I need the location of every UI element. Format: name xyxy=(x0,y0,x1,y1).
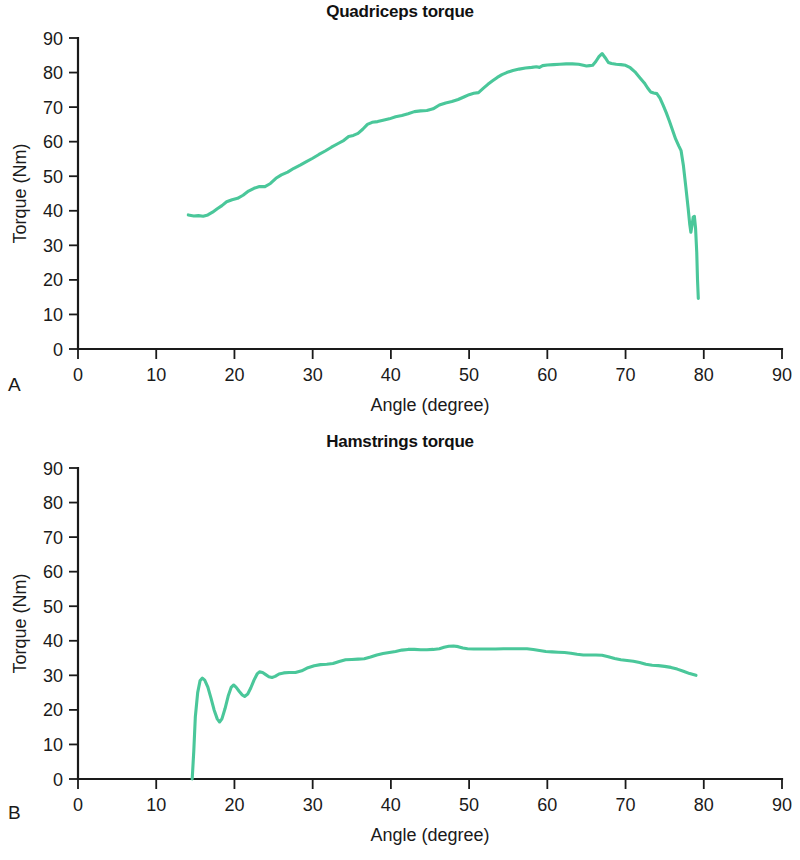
panel-quadriceps: Quadriceps torque A 01020304050607080900… xyxy=(0,0,800,430)
data-series-line xyxy=(188,54,698,299)
data-series-line xyxy=(192,646,696,779)
x-tick-label: 70 xyxy=(616,795,636,815)
x-tick-label: 0 xyxy=(73,365,83,385)
y-tick-label: 70 xyxy=(43,98,63,118)
y-tick-label: 50 xyxy=(43,167,63,187)
x-tick-label: 80 xyxy=(694,795,714,815)
x-tick-label: 20 xyxy=(224,365,244,385)
y-tick-label: 90 xyxy=(43,29,63,49)
y-tick-label: 70 xyxy=(43,528,63,548)
x-tick-label: 60 xyxy=(537,795,557,815)
y-tick-label: 0 xyxy=(53,340,63,360)
x-axis-title: Angle (degree) xyxy=(370,395,489,415)
x-tick-label: 10 xyxy=(146,795,166,815)
y-tick-label: 10 xyxy=(43,735,63,755)
y-tick-label: 20 xyxy=(43,700,63,720)
y-tick-label: 60 xyxy=(43,562,63,582)
x-tick-label: 90 xyxy=(772,795,792,815)
figure-torque-curves: Quadriceps torque A 01020304050607080900… xyxy=(0,0,800,860)
x-tick-label: 60 xyxy=(537,365,557,385)
chart-hamstrings-torque: 01020304050607080900102030405060708090To… xyxy=(0,430,800,860)
y-axis-title: Torque (Nm) xyxy=(10,573,30,673)
y-tick-label: 30 xyxy=(43,236,63,256)
y-tick-label: 10 xyxy=(43,305,63,325)
y-tick-label: 0 xyxy=(53,770,63,790)
x-tick-label: 80 xyxy=(694,365,714,385)
x-axis-title: Angle (degree) xyxy=(370,825,489,845)
y-tick-label: 60 xyxy=(43,132,63,152)
y-tick-label: 20 xyxy=(43,270,63,290)
y-tick-label: 30 xyxy=(43,666,63,686)
x-tick-label: 30 xyxy=(303,795,323,815)
y-tick-label: 80 xyxy=(43,493,63,513)
x-tick-label: 20 xyxy=(224,795,244,815)
y-tick-label: 50 xyxy=(43,597,63,617)
x-tick-label: 40 xyxy=(381,365,401,385)
y-tick-label: 90 xyxy=(43,459,63,479)
x-tick-label: 50 xyxy=(459,795,479,815)
panel-hamstrings: Hamstrings torque B 01020304050607080900… xyxy=(0,430,800,860)
y-tick-label: 80 xyxy=(43,63,63,83)
y-axis-title: Torque (Nm) xyxy=(10,143,30,243)
x-tick-label: 30 xyxy=(303,365,323,385)
y-tick-label: 40 xyxy=(43,201,63,221)
x-tick-label: 0 xyxy=(73,795,83,815)
y-tick-label: 40 xyxy=(43,631,63,651)
x-tick-label: 10 xyxy=(146,365,166,385)
x-tick-label: 70 xyxy=(616,365,636,385)
chart-quadriceps-torque: 01020304050607080900102030405060708090To… xyxy=(0,0,800,430)
x-tick-label: 50 xyxy=(459,365,479,385)
x-tick-label: 40 xyxy=(381,795,401,815)
x-tick-label: 90 xyxy=(772,365,792,385)
